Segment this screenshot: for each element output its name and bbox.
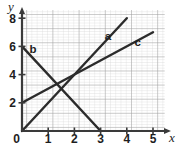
coordinate-graph-figure: 8 6 4 2 0 1 2 3 4 5 y x a b c [0,0,179,145]
series-label-a: a [105,30,112,42]
y-tick-label-2: 2 [9,96,16,110]
y-tick-label-4: 4 [9,68,16,82]
x-axis-label: x [168,130,175,145]
x-tick-label-2: 2 [71,132,78,145]
x-tick-label-3: 3 [97,132,104,145]
origin-label: 0 [13,132,20,145]
y-tick-label-6: 6 [9,40,16,54]
graph-svg: 8 6 4 2 0 1 2 3 4 5 y x a b c [0,0,179,145]
y-axis-label: y [6,0,14,14]
x-tick-label-1: 1 [45,132,52,145]
series-label-b: b [29,43,36,55]
x-tick-label-4: 4 [123,132,130,145]
x-tick-label-5: 5 [150,132,157,145]
series-label-c: c [135,36,142,48]
